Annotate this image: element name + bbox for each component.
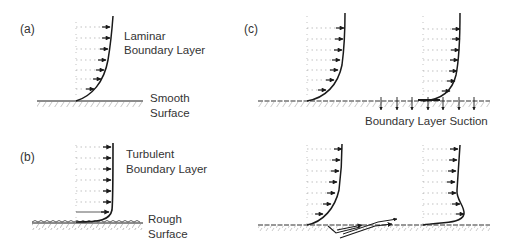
velocity-profile-curve [76,16,113,101]
laminar-label-line1: Laminar [124,29,166,44]
wall-hatch [37,102,143,107]
smooth-surface-label-line2: Surface [150,106,190,121]
laminar-label-line2: Boundary Layer [124,43,205,58]
wall-hatch [32,224,143,230]
panel-a-letter: (a) [20,22,35,36]
panel-c-suction-profiles [258,13,490,110]
boundary-layer-suction-label: Boundary Layer Suction [365,114,488,129]
rough-surface-label-line2: Surface [148,227,188,242]
velocity-profile-curve [76,143,113,222]
panel-c-slot-profiles [258,144,490,238]
velocity-profile-curve [423,145,464,225]
panel-c-letter: (c) [244,22,258,36]
turbulent-label-line2: Boundary Layer [126,162,207,177]
velocity-profile-curve [307,13,345,101]
velocity-profile-curve [423,13,460,101]
rough-surface-label-line1: Rough [148,212,182,227]
turbulent-label-line1: Turbulent [126,147,174,162]
velocity-profile-curve [307,144,342,225]
panel-b-letter: (b) [20,150,35,164]
wall-hatch [258,102,490,107]
smooth-surface-label-line1: Smooth [150,91,190,106]
